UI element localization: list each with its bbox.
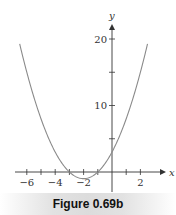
y-tick-label: 20: [94, 34, 107, 45]
x-tick-label: −4: [48, 177, 63, 188]
x-tick-label: 2: [137, 177, 143, 188]
x-axis-arrow-icon: [160, 169, 166, 175]
y-axis-arrow-icon: [109, 24, 115, 30]
figure-caption: Figure 0.69b: [0, 193, 176, 215]
y-axis-label: y: [108, 10, 115, 21]
chart: −6−4−221020xy: [0, 0, 176, 193]
parabola-curve: [20, 44, 148, 179]
axes: −6−4−221020xy: [15, 10, 175, 192]
y-tick-label: 10: [94, 100, 107, 111]
x-axis-label: x: [169, 167, 175, 178]
x-tick-label: −6: [19, 177, 34, 188]
